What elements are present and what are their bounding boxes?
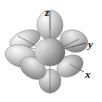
orbital-diagram: z y x	[0, 0, 102, 102]
axis-label-z: z	[44, 6, 50, 18]
orbital-svg: z y x	[0, 0, 102, 102]
axis-label-y: y	[86, 38, 93, 50]
axis-label-x: x	[84, 68, 91, 80]
lobe-center-sheen	[35, 38, 65, 66]
